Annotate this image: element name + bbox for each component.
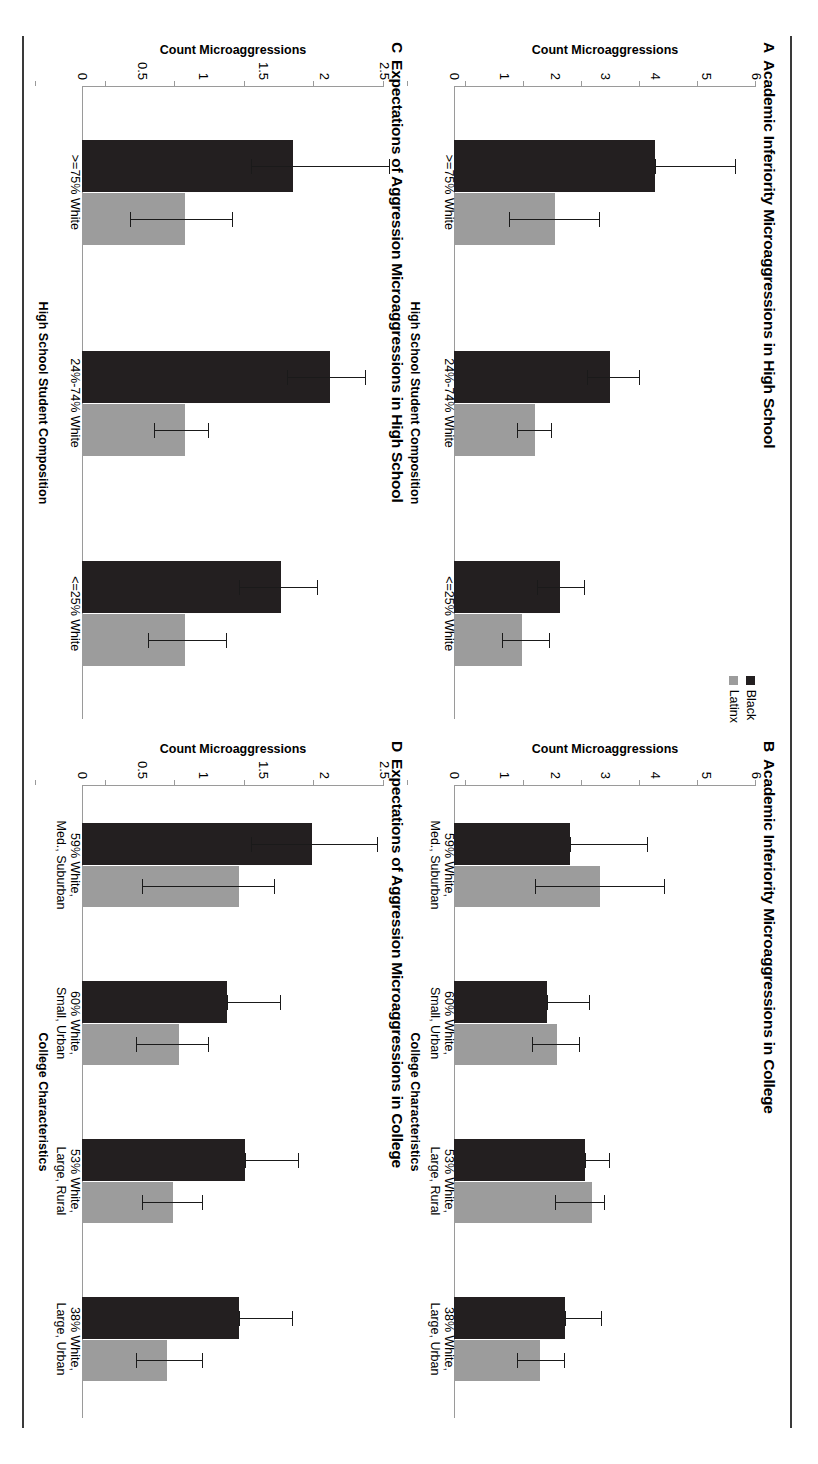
bar-rect: [82, 1139, 245, 1180]
x-tick-label: 59% White, Med., Suburban: [430, 786, 456, 944]
y-tick-mark: [35, 81, 36, 86]
error-bar: [565, 1318, 603, 1319]
error-bar-cap-bottom: [517, 1353, 518, 1368]
y-tick-label: 0.5: [135, 761, 150, 779]
error-bar-cap-top: [208, 423, 209, 438]
legend-swatch-icon: [747, 676, 756, 685]
error-bar-cap-bottom: [565, 1311, 566, 1326]
bar-black: [82, 140, 384, 192]
panel-letter: C: [389, 42, 406, 53]
y-axis-title: Count Microaggressions: [82, 741, 384, 757]
error-bar-cap-bottom: [502, 633, 503, 648]
error-bar-cap-top: [202, 1353, 203, 1368]
x-axis-labels: >=75% White24%-74% White<=25% White: [430, 87, 456, 719]
error-bar-cap-top: [664, 879, 665, 894]
chart-legend: BlackLatinx: [727, 676, 758, 723]
error-bar: [251, 844, 378, 845]
bar-groups: [454, 786, 756, 1418]
plot-area-a: Count Microaggressions0123456>=75% White…: [408, 40, 756, 725]
error-bar: [517, 1360, 565, 1361]
panel-a: AAcademic Inferiority Microaggressions i…: [408, 40, 778, 725]
error-bar: [142, 1202, 202, 1203]
y-axis-title-text: Count Microaggressions: [160, 43, 307, 57]
figure-stage: AAcademic Inferiority Microaggressions i…: [0, 0, 818, 1464]
y-tick-label: 0: [75, 73, 90, 80]
bar-black: [82, 561, 384, 613]
error-bar-cap-bottom: [655, 159, 656, 174]
panel-a-title: AAcademic Inferiority Microaggressions i…: [760, 42, 778, 725]
bar-group: [82, 1102, 384, 1260]
x-axis-title: High School Student Composition: [408, 87, 422, 719]
x-axis-title: High School Student Composition: [36, 87, 50, 719]
x-tick-label: 53% White, Large, Rural: [430, 1102, 456, 1260]
x-axis-labels: >=75% White24%-74% White<=25% White: [56, 87, 82, 719]
error-bar-cap-bottom: [570, 837, 571, 852]
error-bar-cap-top: [317, 580, 318, 595]
error-bar-cap-top: [549, 633, 550, 648]
panel-title-text: Expectations of Aggression Microaggressi…: [389, 759, 406, 1168]
panel-d: DExpectations of Aggression Microaggress…: [36, 739, 406, 1424]
error-bar: [239, 587, 318, 588]
bar-group: [454, 87, 756, 298]
legend-item: Black: [744, 676, 758, 723]
error-bar-cap-bottom: [130, 212, 131, 227]
bar-group: [454, 1102, 756, 1260]
error-bar-cap-top: [589, 995, 590, 1010]
error-bar-cap-top: [232, 212, 233, 227]
error-bar-cap-top: [584, 580, 585, 595]
error-bar-cap-bottom: [227, 995, 228, 1010]
error-bar-cap-bottom: [547, 995, 548, 1010]
y-axis-ticks: 0123456: [454, 757, 756, 783]
bar-latinx: [82, 866, 384, 907]
error-bar-cap-top: [551, 423, 552, 438]
page-rule-bottom: [22, 36, 24, 1428]
error-bar-cap-bottom: [154, 423, 155, 438]
error-bar-cap-top: [280, 995, 281, 1010]
x-tick-label: >=75% White: [430, 87, 456, 298]
y-axis-title-text: Count Microaggressions: [160, 742, 307, 756]
x-tick-label: <=25% White: [430, 508, 456, 719]
error-bar: [535, 886, 666, 887]
error-bar-cap-top: [202, 1195, 203, 1210]
error-bar: [502, 640, 550, 641]
error-bar-cap-top: [647, 837, 648, 852]
error-bar-cap-bottom: [535, 879, 536, 894]
legend-item: Latinx: [727, 676, 741, 723]
bar-latinx: [454, 193, 756, 245]
x-axis-title: College Characteristics: [408, 786, 422, 1418]
y-tick-label: 5: [698, 772, 713, 779]
bar-group: [82, 944, 384, 1102]
bar-latinx: [82, 1340, 384, 1381]
panel-d-title: DExpectations of Aggression Microaggress…: [388, 741, 406, 1424]
y-tick-label: 4: [648, 772, 663, 779]
y-tick-label: 1: [497, 772, 512, 779]
bar-black: [82, 1297, 384, 1338]
y-tick-label: 2: [547, 772, 562, 779]
error-bar-cap-top: [377, 837, 378, 852]
error-bar: [251, 166, 390, 167]
error-bar-cap-top: [609, 1153, 610, 1168]
y-tick-label: 1.5: [256, 761, 271, 779]
panel-b: BAcademic Inferiority Microaggressions i…: [408, 739, 778, 1424]
bar-latinx: [82, 1024, 384, 1065]
error-bar-cap-bottom: [245, 1153, 246, 1168]
bar-group: [82, 786, 384, 944]
y-tick-label: 2: [316, 772, 331, 779]
x-tick-label: 53% White, Large, Rural: [56, 1102, 82, 1260]
panel-title-text: Academic Inferiority Microaggressions in…: [761, 60, 778, 448]
error-bar-cap-top: [365, 370, 366, 385]
x-axis-labels: 59% White, Med., Suburban60% White, Smal…: [56, 786, 82, 1418]
bar-rect: [454, 1297, 565, 1338]
y-axis-ticks: 0123456: [454, 58, 756, 84]
bar-latinx: [82, 1182, 384, 1223]
bars-region: [454, 87, 756, 719]
bar-black: [82, 823, 384, 864]
scanned-page: AAcademic Inferiority Microaggressions i…: [0, 0, 818, 1464]
y-axis-ticks: 00.511.522.5: [82, 58, 384, 84]
y-axis-title: Count Microaggressions: [82, 42, 384, 58]
y-tick-label: 0.5: [135, 62, 150, 80]
error-bar-cap-bottom: [509, 212, 510, 227]
error-bar-cap-top: [564, 1353, 565, 1368]
error-bar-cap-top: [226, 633, 227, 648]
bar-group: [454, 944, 756, 1102]
